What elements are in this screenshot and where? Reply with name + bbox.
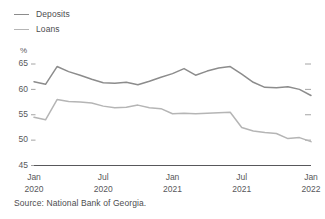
y-tick-label: 65 xyxy=(19,58,29,68)
x-tick-label-year: 2021 xyxy=(163,184,182,194)
x-tick-label-month: Jan xyxy=(166,172,180,182)
chart-series-lines xyxy=(34,67,311,142)
series-line-loans xyxy=(34,100,311,142)
x-axis-ticks: Jan2020Jul2020Jan2021Jul2021Jan2022 xyxy=(25,172,321,194)
y-tick-label: 45 xyxy=(19,160,29,170)
x-tick-label-month: Jul xyxy=(236,172,247,182)
y-axis-ticks: 6560555045 xyxy=(19,58,36,170)
y-tick-label: 55 xyxy=(19,109,29,119)
chart-figure: Deposits Loans % 6560555045 Jan2020Jul20… xyxy=(0,0,325,219)
x-tick-label-year: 2020 xyxy=(94,184,113,194)
x-tick-label-year: 2022 xyxy=(302,184,321,194)
y-axis-ticks-right xyxy=(305,64,311,166)
x-tick-label-month: Jan xyxy=(304,172,318,182)
chart-plot-area: 6560555045 Jan2020Jul2020Jan2021Jul2021J… xyxy=(0,0,325,219)
y-tick-label: 60 xyxy=(19,84,29,94)
chart-source-note: Source: National Bank of Georgia. xyxy=(14,198,146,208)
x-tick-label-year: 2020 xyxy=(25,184,44,194)
x-tick-label-month: Jul xyxy=(98,172,109,182)
x-tick-label-year: 2021 xyxy=(232,184,251,194)
x-tick-label-month: Jan xyxy=(27,172,41,182)
series-line-deposits xyxy=(34,67,311,96)
y-tick-label: 50 xyxy=(19,134,29,144)
